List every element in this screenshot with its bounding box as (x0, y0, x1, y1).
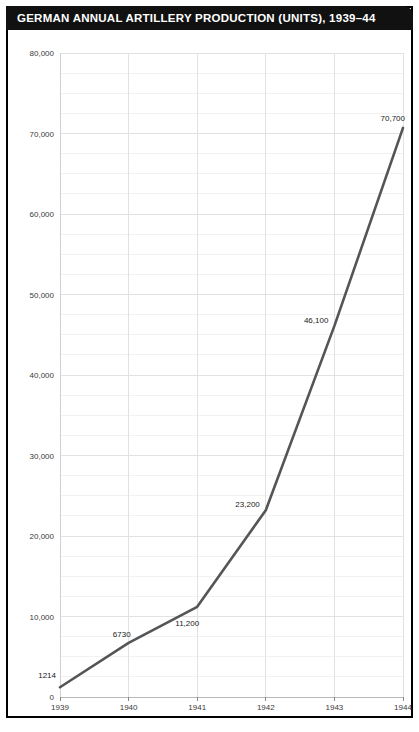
x-tick-label: 1942 (257, 703, 275, 712)
data-point-label: 1214 (38, 671, 56, 680)
y-tick-label: 70,000 (30, 129, 54, 138)
data-point-label: 11,200 (175, 619, 199, 628)
y-tick-label: 0 (50, 693, 54, 702)
chart-title-bar: GERMAN ANNUAL ARTILLERY PRODUCTION (UNIT… (6, 6, 413, 30)
data-point-label: 23,200 (235, 500, 259, 509)
y-tick-label: 60,000 (30, 210, 54, 219)
y-tick-label: 80,000 (30, 49, 54, 58)
y-tick-label: 50,000 (30, 290, 54, 299)
chart-figure: GERMAN ANNUAL ARTILLERY PRODUCTION (UNIT… (0, 0, 419, 732)
axis-lines (60, 53, 403, 701)
page-title: GERMAN ANNUAL ARTILLERY PRODUCTION (UNIT… (6, 12, 376, 24)
x-tick-label: 1939 (51, 703, 69, 712)
data-point-label: 70,700 (381, 114, 405, 123)
y-tick-label: 30,000 (30, 451, 54, 460)
major-gridlines (60, 53, 403, 697)
data-point-label: 6730 (113, 630, 131, 639)
series-artillery-production (60, 128, 403, 687)
series-line (60, 128, 403, 687)
x-tick-label: 1944 (394, 703, 412, 712)
y-tick-label: 10,000 (30, 612, 54, 621)
y-tick-label: 40,000 (30, 371, 54, 380)
plot-wrapper: 010,00020,00030,00040,00050,00060,00070,… (8, 30, 411, 716)
data-point-label: 46,100 (304, 316, 328, 325)
line-chart-svg (8, 30, 411, 716)
x-tick-label: 1943 (325, 703, 343, 712)
x-tick-label: 1940 (120, 703, 138, 712)
y-tick-label: 20,000 (30, 532, 54, 541)
x-tick-label: 1941 (188, 703, 206, 712)
